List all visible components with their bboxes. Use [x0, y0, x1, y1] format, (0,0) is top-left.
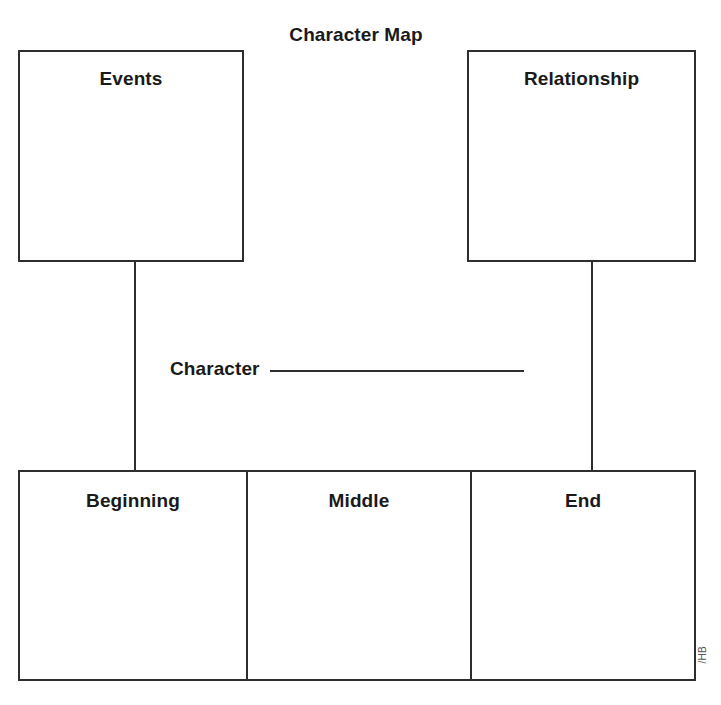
character-name-input[interactable] [270, 370, 524, 372]
publisher-credit: /HB [697, 646, 708, 664]
character-name-row: Character [170, 358, 524, 380]
stage-cell-middle[interactable]: Middle [246, 472, 470, 679]
events-box-label: Events [20, 68, 242, 90]
stage-cell-beginning[interactable]: Beginning [20, 472, 246, 679]
character-label: Character [170, 358, 260, 380]
stage-label-end: End [472, 490, 694, 512]
stage-label-middle: Middle [248, 490, 470, 512]
relationship-box[interactable]: Relationship [467, 50, 696, 262]
stage-label-beginning: Beginning [20, 490, 246, 512]
relationship-box-label: Relationship [469, 68, 694, 90]
page-title: Character Map [0, 24, 712, 46]
connector-line-events [134, 261, 136, 471]
character-map-worksheet: Character Map Events Relationship Charac… [0, 0, 721, 705]
stage-cell-end[interactable]: End [470, 472, 694, 679]
connector-line-relationship [591, 261, 593, 471]
story-stages-box: Beginning Middle End [18, 470, 696, 681]
events-box[interactable]: Events [18, 50, 244, 262]
